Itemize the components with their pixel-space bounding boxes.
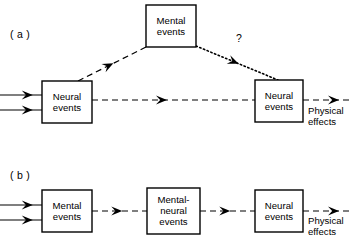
physical-effects-arrow-arrowhead bbox=[328, 95, 339, 104]
figure-root: Neural eventsMental eventsNeural events(… bbox=[0, 0, 353, 239]
mental-events-box-top-label: Mental events bbox=[157, 15, 186, 37]
neural-events-box-left-label: Neural events bbox=[53, 91, 81, 113]
panel-a-label: ( a ) bbox=[10, 28, 30, 40]
physical-effects-label: Physical effects bbox=[308, 215, 344, 237]
panel-b-label: ( b ) bbox=[10, 169, 30, 181]
question-mark-annotation: ? bbox=[236, 32, 242, 44]
physical-effects-label: Physical effects bbox=[308, 105, 344, 127]
mental-events-box-label: Mental events bbox=[53, 200, 82, 222]
neural-events-box-right-label: Neural events bbox=[265, 90, 293, 112]
mental-to-neural-dotted-arrow-arrowhead bbox=[227, 55, 241, 68]
neural-events-box-label: Neural events bbox=[265, 200, 293, 222]
neural-to-mental-arrow-arrowhead bbox=[101, 59, 115, 72]
mental-neural-events-box-label: Mental- neural events bbox=[158, 194, 190, 228]
